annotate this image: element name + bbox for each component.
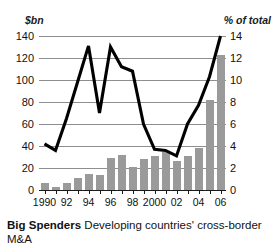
x-tickmark <box>221 190 222 194</box>
left-axis-tick-label: 40 <box>0 141 34 152</box>
x-tickmark <box>45 190 46 194</box>
x-tickmark <box>122 190 123 194</box>
left-axis-tick-label: 100 <box>0 75 34 86</box>
right-axis-tick-label: 4 <box>230 141 274 152</box>
right-axis-tick-label: 14 <box>230 31 274 42</box>
x-tickmark <box>67 190 68 194</box>
left-axis-tick-label: 80 <box>0 97 34 108</box>
x-tickmark <box>111 190 112 194</box>
x-tickmark <box>89 190 90 194</box>
left-axis-tick-label: 0 <box>0 185 34 196</box>
chart-caption: Big Spenders Developing countries' cross… <box>7 218 273 246</box>
x-axis-tick-label: 1990 <box>33 197 56 208</box>
x-tickmark <box>188 190 189 194</box>
left-axis-tick-label: 120 <box>0 53 34 64</box>
x-tickmark <box>133 190 134 194</box>
x-axis-tick-label: 98 <box>127 197 139 208</box>
x-tickmark <box>177 190 178 194</box>
right-axis-tick-label: 0 <box>230 185 274 196</box>
x-axis-tick-label: 92 <box>61 197 73 208</box>
caption-title: Big Spenders <box>7 219 81 231</box>
x-tickmark <box>56 190 57 194</box>
x-tickmark <box>144 190 145 194</box>
line-series <box>39 36 226 190</box>
x-axis-labels: 1990929496982000020406 <box>39 197 226 211</box>
right-axis-unit-label: % of total <box>224 14 271 26</box>
x-tickmark <box>210 190 211 194</box>
x-tickmark <box>100 190 101 194</box>
right-axis-tick-label: 8 <box>230 97 274 108</box>
left-axis-unit-label: $bn <box>25 14 44 26</box>
x-axis-tick-label: 2000 <box>143 197 166 208</box>
right-axis-tick-label: 2 <box>230 163 274 174</box>
right-axis-tick-label: 10 <box>230 75 274 86</box>
x-axis-tick-label: 04 <box>193 197 205 208</box>
x-axis-tick-label: 96 <box>105 197 117 208</box>
x-axis-tick-label: 06 <box>215 197 227 208</box>
chart-figure: $bn % of total 020406080100120140 024681… <box>0 0 279 252</box>
x-tickmark <box>166 190 167 194</box>
x-tickmark <box>78 190 79 194</box>
x-tickmark <box>155 190 156 194</box>
right-axis-tick-label: 6 <box>230 119 274 130</box>
left-axis-tick-label: 20 <box>0 163 34 174</box>
left-axis-tick-label: 140 <box>0 31 34 42</box>
x-axis-tick-label: 02 <box>171 197 183 208</box>
x-tickmark <box>199 190 200 194</box>
right-axis-tick-label: 12 <box>230 53 274 64</box>
x-axis-tick-label: 94 <box>83 197 95 208</box>
plot-area <box>39 36 226 190</box>
left-axis-tick-label: 60 <box>0 119 34 130</box>
